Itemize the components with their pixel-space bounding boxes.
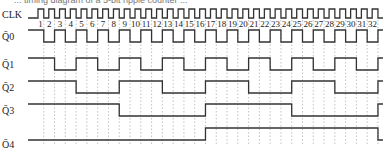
signal-label: Q̄4 [2, 139, 14, 148]
edge-number: 4 [68, 19, 73, 29]
edge-number: 19 [228, 19, 238, 29]
edge-number: 11 [142, 19, 151, 29]
edge-number: 29 [336, 19, 346, 29]
edge-number: 13 [163, 19, 173, 29]
signal-label: Q̄0 [2, 31, 14, 42]
edge-number: 23 [271, 19, 281, 29]
edge-number: 20 [239, 19, 249, 29]
edge-number: 22 [260, 19, 269, 29]
edge-number: 3 [58, 19, 63, 29]
edge-number: 27 [314, 19, 324, 29]
edge-number: 18 [217, 19, 227, 29]
signal-waveform [28, 30, 383, 42]
edge-guides [44, 20, 378, 146]
edge-number: 1 [38, 19, 43, 29]
clk-label: CLK [2, 9, 23, 20]
edge-number: 28 [325, 19, 335, 29]
edge-number: 16 [196, 19, 206, 29]
edge-number: 21 [249, 19, 258, 29]
edge-number: 32 [368, 19, 377, 29]
signal-waveform [28, 104, 383, 116]
edge-number: 5 [79, 19, 84, 29]
edge-number: 24 [282, 19, 292, 29]
clk-waveform [28, 9, 383, 18]
signal-label: Q̄2 [2, 82, 14, 93]
signal-waveform [28, 58, 383, 70]
edge-number: 9 [122, 19, 127, 29]
edge-number: 14 [174, 19, 184, 29]
edge-number: 26 [303, 19, 313, 29]
edge-number: 8 [112, 19, 117, 29]
clock-edge-numbers: 1234567891011121314151617181920212223242… [38, 19, 377, 29]
signal-labels: CLKQ̄0Q̄1Q̄2Q̄3Q̄4 [2, 9, 23, 148]
edge-number: 6 [90, 19, 95, 29]
timing-diagram: CLKQ̄0Q̄1Q̄2Q̄3Q̄4 123456789101112131415… [0, 0, 388, 148]
edge-number: 30 [347, 19, 357, 29]
edge-number: 17 [206, 19, 216, 29]
signal-label: Q̄1 [2, 59, 14, 70]
edge-number: 12 [152, 19, 161, 29]
signal-waveform [28, 81, 383, 93]
edge-number: 7 [101, 19, 106, 29]
signal-waveform [28, 128, 383, 140]
edge-number: 10 [131, 19, 141, 29]
edge-number: 2 [47, 19, 52, 29]
edge-number: 15 [185, 19, 195, 29]
edge-number: 31 [357, 19, 366, 29]
edge-number: 25 [293, 19, 303, 29]
signal-label: Q̄3 [2, 105, 14, 116]
